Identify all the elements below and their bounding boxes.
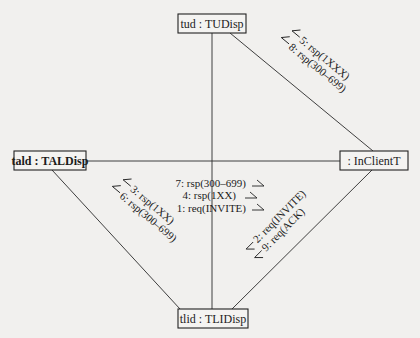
object-tald[interactable]: tald : TALDisp [12,151,89,170]
object-tald-label: tald : TALDisp [12,154,89,168]
message-4: 4: rsp(1XX) [183,189,237,202]
center-messages: 7: rsp(300–699) 4: rsp(1XX) 1: req(INVIT… [175,177,264,215]
arrow-right-icon [245,192,257,198]
object-tud-label: tud : TUDisp [180,17,243,31]
object-inclient[interactable]: : InClientT [340,151,408,170]
communication-diagram: tud : TUDisp tald : TALDisp : InClientT … [0,0,420,338]
arrow-right-icon [252,204,264,210]
object-inclient-label: : InClientT [348,154,402,168]
arrow-up-left-icon [112,182,124,193]
link-tald-tlid [52,170,180,309]
arrow-down-left-icon [246,242,257,253]
message-1: 1: req(INVITE) [177,202,247,215]
arrow-down-left-icon [255,250,266,261]
object-tlid-label: tlid : TLIDisp [180,312,246,326]
arrow-up-left-icon [281,33,293,44]
arrow-right-icon [252,180,264,186]
arrow-up-left-icon [123,175,135,186]
arrow-up-left-icon [292,26,304,37]
object-tlid[interactable]: tlid : TLIDisp [178,309,248,328]
tud-inclient-messages: 5: rsp(1XXX) 8: rsp(300–699) [277,24,357,96]
object-tud[interactable]: tud : TUDisp [178,14,246,33]
